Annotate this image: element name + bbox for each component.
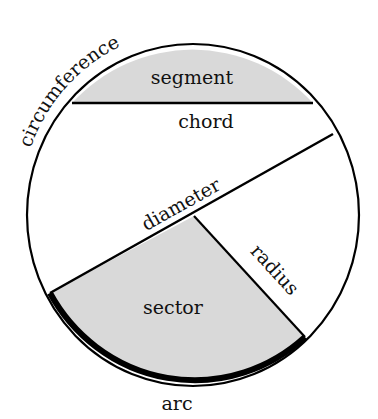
circle-diagram: circumference segment chord diameter rad… (0, 0, 378, 419)
segment-label: segment (151, 66, 234, 88)
chord-label: chord (178, 110, 234, 132)
sector-label: sector (143, 296, 204, 318)
arc-label: arc (161, 392, 192, 414)
